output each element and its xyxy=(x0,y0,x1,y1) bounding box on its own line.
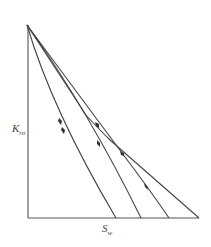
diagram-canvas xyxy=(0,0,211,247)
y-axis-label-sub: ro xyxy=(19,129,25,137)
arrow-icon xyxy=(61,127,65,134)
x-axis-label-sub: w xyxy=(108,229,113,237)
curve-path-1 xyxy=(27,25,116,218)
curve-path-2 xyxy=(27,25,141,218)
arrow-icon xyxy=(58,118,62,125)
x-axis-label: Sw xyxy=(102,222,112,237)
y-axis-label: Kro xyxy=(12,122,25,137)
arrow-markers xyxy=(58,118,148,190)
arrow-icon xyxy=(97,140,100,147)
curve-path-4-outer xyxy=(27,25,199,218)
